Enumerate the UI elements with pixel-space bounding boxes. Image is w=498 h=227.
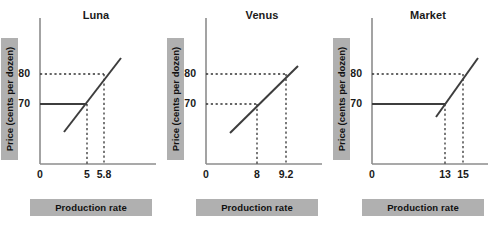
- plot-area-venus: 80 70 0 8 9.2: [190, 12, 330, 178]
- y-tick-70-venus: 70: [174, 97, 196, 109]
- x-axis-label-box-market: Production rate: [362, 199, 484, 216]
- plot-svg-market: [356, 12, 496, 178]
- x-tick-0-luna: 0: [32, 168, 48, 180]
- plot-area-market: 80 70 0 13 15: [356, 12, 496, 178]
- x-tick-8-venus: 8: [249, 168, 265, 180]
- x-tick-0-venus: 0: [198, 168, 214, 180]
- supply-curve-venus: [230, 66, 298, 133]
- x-axis-label-box-luna: Production rate: [30, 199, 152, 216]
- supply-curve-rising-market: [436, 58, 478, 117]
- x-axis-label-box-venus: Production rate: [196, 199, 318, 216]
- plot-svg-luna: [24, 12, 164, 178]
- x-tick-92-venus: 9.2: [274, 168, 298, 180]
- x-tick-0-market: 0: [364, 168, 380, 180]
- supply-curve-rising-luna: [64, 58, 121, 132]
- x-tick-58-luna: 5.8: [92, 168, 116, 180]
- plot-area-luna: 80 70 0 5 5.8: [24, 12, 164, 178]
- x-axis-label-venus: Production rate: [221, 202, 293, 213]
- y-tick-80-venus: 80: [174, 67, 196, 79]
- x-tick-15-market: 15: [453, 168, 473, 180]
- y-tick-80-market: 80: [340, 67, 362, 79]
- y-tick-70-luna: 70: [8, 97, 30, 109]
- supply-curves-figure: Luna Price (cents per dozen) 80: [0, 0, 498, 227]
- x-axis-label-luna: Production rate: [55, 202, 127, 213]
- plot-svg-venus: [190, 12, 330, 178]
- y-tick-80-luna: 80: [8, 67, 30, 79]
- panel-market: Market Price (cents per dozen) 80 70 0 1…: [332, 0, 498, 227]
- x-tick-13-market: 13: [435, 168, 455, 180]
- panel-venus: Venus Price (cents per dozen) 80 70 0 8 …: [166, 0, 332, 227]
- y-tick-70-market: 70: [340, 97, 362, 109]
- x-axis-label-market: Production rate: [387, 202, 459, 213]
- panel-luna: Luna Price (cents per dozen) 80: [0, 0, 166, 227]
